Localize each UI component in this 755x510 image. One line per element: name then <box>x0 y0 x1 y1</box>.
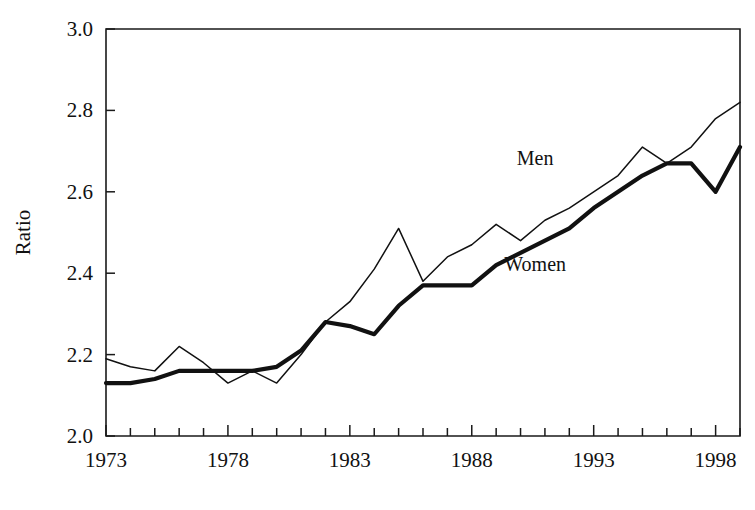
x-tick-label: 1978 <box>207 448 249 472</box>
y-tick-label: 2.8 <box>67 98 93 122</box>
axis-layer: 2.02.22.42.62.83.01973197819831988199319… <box>11 17 740 472</box>
series-annotation-men: Men <box>517 147 554 169</box>
y-tick-label: 2.6 <box>67 180 93 204</box>
plot-frame <box>106 29 740 436</box>
series-line-men <box>106 102 740 383</box>
series-annotation-women: Women <box>504 253 566 275</box>
line-chart: 2.02.22.42.62.83.01973197819831988199319… <box>0 0 755 510</box>
x-tick-label: 1983 <box>329 448 371 472</box>
label-layer: MenWomen <box>504 147 566 275</box>
y-tick-label: 2.2 <box>67 343 93 367</box>
x-tick-label: 1988 <box>451 448 493 472</box>
y-tick-label: 2.4 <box>67 261 94 285</box>
series-layer <box>106 102 740 383</box>
series-line-women <box>106 147 740 383</box>
x-tick-label: 1993 <box>573 448 615 472</box>
x-tick-label: 1973 <box>85 448 127 472</box>
y-tick-label: 3.0 <box>67 17 93 41</box>
y-tick-label: 2.0 <box>67 424 93 448</box>
x-tick-label: 1998 <box>695 448 737 472</box>
y-axis-title: Ratio <box>11 210 35 256</box>
chart-container: 2.02.22.42.62.83.01973197819831988199319… <box>0 0 755 510</box>
